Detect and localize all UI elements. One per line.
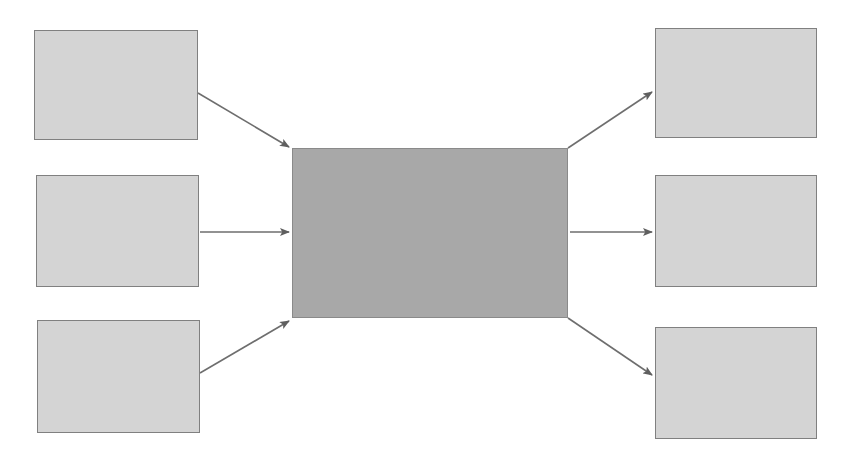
input-node-3-label	[38, 321, 199, 432]
output-node-1-label	[656, 29, 816, 137]
hub-node[interactable]	[292, 148, 568, 318]
hub-node-label	[293, 149, 567, 317]
block-diagram-canvas	[0, 0, 852, 467]
connector-hub-to-output-1	[568, 92, 652, 148]
connector-hub-to-output-3	[568, 318, 652, 375]
input-node-1-label	[35, 31, 197, 139]
output-node-2-label	[656, 176, 816, 286]
input-node-2-label	[37, 176, 198, 286]
input-node-3[interactable]	[37, 320, 200, 433]
input-node-1[interactable]	[34, 30, 198, 140]
output-node-3-label	[656, 328, 816, 438]
output-node-2[interactable]	[655, 175, 817, 287]
output-node-3[interactable]	[655, 327, 817, 439]
input-node-2[interactable]	[36, 175, 199, 287]
connector-input-3-to-hub	[200, 321, 289, 373]
connector-input-1-to-hub	[198, 93, 289, 147]
output-node-1[interactable]	[655, 28, 817, 138]
